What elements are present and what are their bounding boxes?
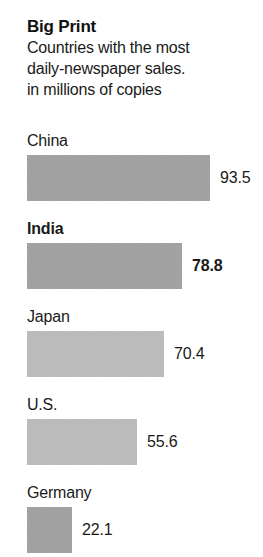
bar-label-china: China [27,131,68,151]
bar-value-germany: 22.1 [82,520,112,540]
bar-value-india: 78.8 [192,256,222,276]
bar-row-germany: 22.1 [27,507,112,553]
bar-label-us: U.S. [27,395,57,415]
bar-row-japan: 70.4 [27,331,204,377]
bar-india [27,243,182,289]
bar-label-india: India [27,219,63,239]
bar-label-japan: Japan [27,307,70,327]
bar-group-us: U.S. 55.6 [0,395,263,483]
chart-subtitle: Countries with the most daily-newspaper … [27,37,257,100]
bar-group-germany: Germany 22.1 [0,483,263,557]
bar-value-us: 55.6 [147,432,177,452]
chart-header: Big Print Countries with the most daily-… [27,16,257,100]
bar-value-china: 93.5 [220,168,250,188]
bar-label-germany: Germany [27,483,91,503]
chart-title: Big Print [27,16,257,37]
bar-group-india: India 78.8 [0,219,263,307]
bar-row-us: 55.6 [27,419,177,465]
bar-row-india: 78.8 [27,243,222,289]
bar-group-japan: Japan 70.4 [0,307,263,395]
bar-list: China 93.5 India 78.8 Japan 70.4 U.S. [0,131,263,557]
bar-row-china: 93.5 [27,155,250,201]
bar-value-japan: 70.4 [174,344,204,364]
bar-china [27,155,210,201]
bar-japan [27,331,164,377]
bar-us [27,419,137,465]
bar-group-china: China 93.5 [0,131,263,219]
bar-germany [27,507,72,553]
